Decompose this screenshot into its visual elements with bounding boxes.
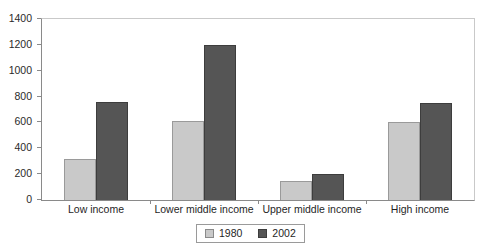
bar-chart: 1400 1200 1000 800 600 400 200 0 [0, 0, 490, 251]
y-tick-label: 600 [14, 116, 32, 127]
legend-swatch-1980-icon [205, 229, 214, 238]
x-axis-label-lower-middle-income: Lower middle income [150, 203, 258, 219]
x-axis-labels: Low income Lower middle income Upper mid… [42, 203, 474, 219]
y-tick-label: 200 [14, 168, 32, 179]
legend-label-2002: 2002 [272, 228, 295, 239]
y-tick-label: 1200 [9, 39, 32, 50]
bar-2002-low-income [96, 102, 128, 200]
legend-swatch-2002-icon [258, 229, 267, 238]
bar-group-upper-middle-income [258, 19, 366, 200]
y-tick-label: 800 [14, 90, 32, 101]
bar-2002-lower-middle-income [204, 45, 236, 200]
bar-2002-upper-middle-income [312, 174, 344, 200]
bar-groups [42, 19, 474, 200]
y-tick-label: 0 [26, 194, 32, 205]
y-tick-label: 1400 [9, 13, 32, 24]
y-tick-label: 1000 [9, 64, 32, 75]
x-axis-label-low-income: Low income [42, 203, 150, 219]
bar-1980-lower-middle-income [172, 121, 204, 200]
bar-group-high-income [366, 19, 474, 200]
legend-entry-2002: 2002 [258, 228, 295, 239]
bar-2002-high-income [420, 103, 452, 200]
chart-legend: 1980 2002 [196, 224, 305, 243]
legend-entry-1980: 1980 [205, 228, 242, 239]
bar-1980-high-income [388, 122, 420, 200]
bar-1980-low-income [64, 159, 96, 200]
y-axis: 1400 1200 1000 800 600 400 200 0 [0, 0, 38, 251]
bar-group-lower-middle-income [150, 19, 258, 200]
x-axis-label-high-income: High income [366, 203, 474, 219]
bar-1980-upper-middle-income [280, 181, 312, 200]
y-tick-label: 400 [14, 142, 32, 153]
legend-label-1980: 1980 [219, 228, 242, 239]
x-axis-label-upper-middle-income: Upper middle income [258, 203, 366, 219]
bar-group-low-income [42, 19, 150, 200]
